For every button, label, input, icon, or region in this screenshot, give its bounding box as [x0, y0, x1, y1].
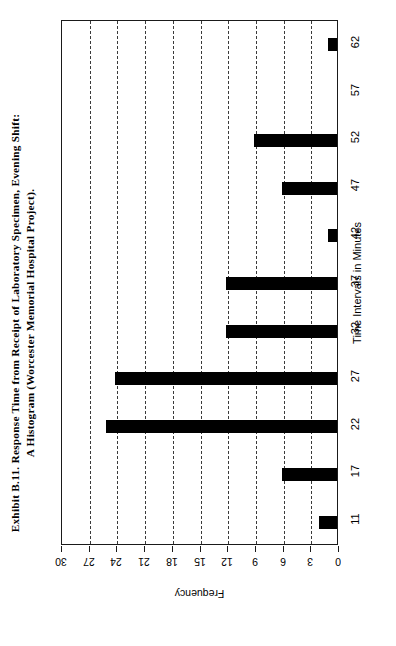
bar-row: [254, 116, 337, 164]
value-axis-label-24: 24: [101, 556, 131, 568]
bar-row: [282, 451, 337, 499]
value-axis-label-6: 6: [268, 556, 298, 568]
bar-42[interactable]: [328, 229, 337, 242]
gridline-24: [117, 21, 118, 544]
bar-row: [106, 403, 337, 451]
value-axis-tick-30: [61, 546, 62, 552]
bar-27[interactable]: [115, 372, 337, 385]
value-axis-tick-24: [116, 546, 117, 552]
category-axis-label-37: 37: [349, 268, 361, 294]
value-axis-tick-9: [255, 546, 256, 552]
category-axis-label-32: 32: [349, 315, 361, 341]
category-axis-label-47: 47: [349, 172, 361, 198]
category-axis-label-22: 22: [349, 411, 361, 437]
value-axis-tick-18: [172, 546, 173, 552]
bar-row: [226, 260, 337, 308]
bar-52[interactable]: [254, 134, 337, 147]
category-axis-label-27: 27: [349, 363, 361, 389]
gridline-15: [201, 21, 202, 544]
bar-17[interactable]: [282, 468, 337, 481]
category-axis-label-57: 57: [349, 77, 361, 103]
bar-row: [328, 21, 337, 69]
bar-row: [115, 355, 337, 403]
value-axis-tick-15: [200, 546, 201, 552]
value-axis-label-9: 9: [240, 556, 270, 568]
value-axis-label-3: 3: [295, 556, 325, 568]
bar-62[interactable]: [328, 38, 337, 51]
chart-title-rotation-wrapper: Exhibit B.11. Response Time from Receipt…: [3, 13, 43, 633]
value-axis-label-27: 27: [74, 556, 104, 568]
gridline-21: [145, 21, 146, 544]
value-axis-tick-21: [144, 546, 145, 552]
bar-22[interactable]: [106, 420, 337, 433]
value-axis-tick-6: [283, 546, 284, 552]
plot-area: [61, 20, 338, 545]
chart-area: Time Intervals in Minutes Frequency 3027…: [46, 0, 396, 646]
value-axis-label-15: 15: [185, 556, 215, 568]
value-axis-tick-0: [338, 546, 339, 552]
value-axis-label-18: 18: [157, 556, 187, 568]
bar-32[interactable]: [226, 325, 337, 338]
page-title: Exhibit B.11. Response Time from Receipt…: [8, 114, 38, 533]
category-axis-label-11: 11: [349, 506, 361, 532]
category-axis-label-17: 17: [349, 458, 361, 484]
category-axis-label-62: 62: [349, 29, 361, 55]
value-axis-label-21: 21: [129, 556, 159, 568]
gridline-27: [90, 21, 91, 544]
bar-11[interactable]: [319, 516, 337, 529]
bar-row: [282, 164, 337, 212]
value-axis-tick-3: [310, 546, 311, 552]
bar-row: [328, 212, 337, 260]
bar-37[interactable]: [226, 277, 337, 290]
bar-row: [319, 498, 337, 546]
value-axis-label-12: 12: [212, 556, 242, 568]
value-axis-tick-27: [89, 546, 90, 552]
bar-row: [226, 307, 337, 355]
bar-47[interactable]: [282, 182, 337, 195]
category-axis-label-42: 42: [349, 220, 361, 246]
chart-title-block: Exhibit B.11. Response Time from Receipt…: [0, 0, 46, 646]
value-axis-label-30: 30: [46, 556, 76, 568]
value-axis-label-0: 0: [323, 556, 353, 568]
value-axis-tick-12: [227, 546, 228, 552]
category-axis-label-52: 52: [349, 124, 361, 150]
gridline-18: [173, 21, 174, 544]
value-axis-title: Frequency: [61, 588, 338, 600]
